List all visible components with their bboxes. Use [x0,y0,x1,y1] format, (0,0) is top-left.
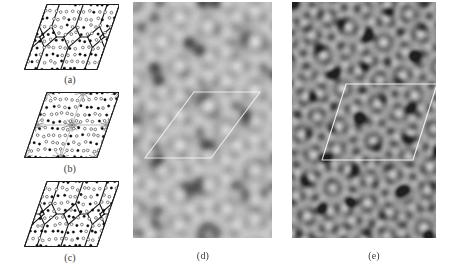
atom-open [93,134,96,137]
atom-open [59,222,62,225]
atom-filled [72,231,75,234]
atom-open [106,201,109,204]
atom-filled [46,17,49,20]
atom-filled [52,31,55,34]
panel-c-caption: (c) [56,252,84,263]
atom-open [97,134,100,137]
atom-filled [35,54,38,57]
atom-filled [49,148,52,151]
atom-open [94,202,97,205]
atom-open [79,121,82,124]
atom-open [95,97,98,100]
panel-c-tiling [24,181,119,247]
atom-open [88,9,91,12]
atom-open [62,216,65,219]
atom-open [54,238,57,241]
atom-open [58,208,61,211]
atom-filled [64,209,67,212]
atom-filled [80,230,83,233]
atom-open [91,239,94,242]
atom-filled [70,135,73,138]
atom-filled [51,127,54,130]
atom-open [70,223,73,226]
atom-open [54,148,57,151]
panel-d-caption: (d) [189,250,217,261]
atom-filled [89,203,92,206]
atom-filled [45,106,48,109]
atom-filled [55,39,58,42]
atom-open [54,97,57,100]
atom-open [79,18,82,21]
atom-open [46,195,49,198]
atom-open [88,98,91,101]
micrograph-canvas-d [133,2,272,238]
panel-a-tiling [24,4,119,70]
atom-open [66,149,69,152]
atom-open [64,106,67,109]
atom-open [82,11,85,14]
atom-open [76,189,79,192]
atom-filled [36,47,39,50]
atom-open [52,141,55,144]
atom-open [94,112,97,115]
atom-filled [80,33,83,36]
atom-filled [46,54,49,57]
atom-open [99,24,102,27]
atom-filled [90,53,93,56]
atom-filled [79,53,82,56]
atom-filled [60,60,63,63]
tile-edge [39,92,47,93]
atom-filled [56,127,59,130]
atom-open [62,143,65,146]
atom-filled [41,33,44,36]
atom-open [81,223,84,226]
atom-open [71,149,74,152]
atom-open [90,32,93,35]
atom-open [87,62,90,65]
atom-open [87,238,90,241]
atom-open [110,98,113,101]
atom-open [39,53,42,56]
atom-open [58,134,61,137]
atom-open [63,17,66,20]
atom-open [37,225,40,228]
atom-filled [61,231,64,234]
atom-open [110,11,113,14]
atom-open [70,209,73,212]
atom-open [84,114,87,117]
atom-filled [44,230,47,233]
tiling-svg-a [24,4,119,70]
tile-edge [97,156,105,158]
atom-open [82,203,85,206]
atom-open [97,47,100,50]
atom-open [84,196,87,199]
atom-filled [67,231,70,234]
atom-open [94,128,97,131]
atom-open [82,99,85,102]
atom-filled [107,105,110,108]
atom-open [55,188,58,191]
atom-open [105,187,108,190]
atom-filled [53,105,56,108]
atom-open [100,201,103,204]
atom-filled [68,18,71,21]
atom-open [48,45,51,48]
atom-open [58,32,61,35]
atom-filled [89,40,92,43]
atom-open [103,120,106,123]
atom-open [55,10,58,13]
atom-open [42,135,45,138]
atom-filled [91,209,94,212]
atom-open [43,217,46,220]
atom-open [41,239,44,242]
atom-open [60,26,63,29]
atom-filled [67,143,70,146]
atom-open [95,39,98,42]
panel-e-micrograph [292,2,436,238]
atom-open [43,113,46,116]
atom-filled [59,120,62,123]
atom-open [32,237,35,240]
atom-open [50,216,53,219]
atom-filled [97,107,100,110]
atom-filled [80,104,83,107]
